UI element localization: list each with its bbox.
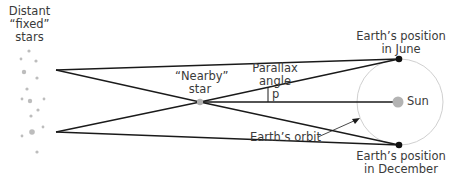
- earth-orbit-label: Earth’s orbit: [250, 131, 321, 144]
- june-position-label: Earth’s position in June: [356, 30, 446, 56]
- label-line: in June: [356, 43, 446, 56]
- sun-label: Sun: [407, 95, 429, 108]
- sun: [393, 97, 404, 108]
- parallax-angle-label: Parallax angle: [245, 62, 305, 88]
- arrowhead-icon: [352, 118, 360, 124]
- label-line: in December: [356, 163, 446, 176]
- december-position-label: Earth’s position in December: [356, 150, 446, 176]
- distant-stars: [20, 49, 46, 153]
- cross-line-lower: [56, 102, 200, 132]
- earth-june: [396, 56, 403, 63]
- nearby-star-label: “Nearby” star: [175, 70, 225, 96]
- distant-stars-label: Distant “fixed” stars: [2, 5, 57, 44]
- parallax-p-symbol: p: [272, 88, 279, 101]
- nearby-star: [197, 99, 203, 105]
- earth-december: [396, 142, 403, 149]
- label-line: stars: [2, 31, 57, 44]
- label-line: star: [175, 83, 225, 96]
